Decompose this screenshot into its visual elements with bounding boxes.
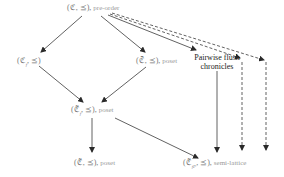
node-ctilde-fp-math2: , ⪯), [196,158,212,167]
node-cbar-desc: poset [162,57,177,65]
node-ctilde-f: (ℭ̃f, ⪯), poset [71,105,114,118]
node-cbar: (ℭ̄, ⪯), poset [136,56,177,66]
node-pairwise-flush-chronicles: Pairwise flush chronicles [190,53,244,71]
order-hierarchy-diagram: (ℭ, ⪯), pre-order (ℭf, ⪯) (ℭ̄, ⪯), poset… [0,0,284,177]
edge-preorder-to-cf [41,16,82,52]
node-ctilde-fp-math: (ℭ̃ [183,158,192,167]
node-ctilde-desc: poset [100,159,115,167]
node-preorder: (ℭ, ⪯), pre-order [67,3,119,13]
node-ctilde-f-math: (ℭ̃ [71,105,80,114]
node-preorder-desc: pre-order [93,4,119,12]
edges-layer [0,0,284,177]
node-cbar-math: (ℭ̄, ⪯), [136,56,160,65]
node-pairwise-line2: chronicles [190,62,244,71]
edge-ctilde-f-to-ctilde-fp [115,118,198,158]
node-cf: (ℭf, ⪯) [17,56,41,69]
node-cf-math2: , ⪯) [27,56,41,65]
edge-cbar-to-ctilde-f [102,67,146,102]
node-cf-math: (ℭ [17,56,26,65]
node-ctilde-f-math2: , ⪯), [81,105,97,114]
node-preorder-math: (ℭ, ⪯), [67,3,91,12]
edge-cf-to-ctilde-f [39,66,83,102]
node-ctilde-math: (ℭ̃, ⪯), [74,158,98,167]
node-pairwise-line1: Pairwise flush [190,53,244,62]
node-ctilde: (ℭ̃, ⪯), poset [74,158,115,168]
edge-preorder-dashed-1 [110,14,240,58]
node-ctilde-fp: (ℭ̃fP, ⪯), semi-lattice [183,158,246,171]
node-ctilde-fp-desc: semi-lattice [214,159,247,167]
node-ctilde-f-desc: poset [99,106,114,114]
